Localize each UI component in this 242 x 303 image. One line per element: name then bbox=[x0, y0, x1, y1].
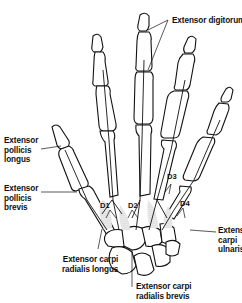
label-line: Extensor bbox=[4, 136, 38, 146]
label-d3: D3 bbox=[167, 172, 177, 182]
label-extensor-carpi-radialis-longus: Extensor carpi radialis longus bbox=[62, 255, 118, 274]
label-line: pollicis bbox=[4, 146, 38, 156]
label-line: radialis longus bbox=[62, 265, 118, 275]
label-d1: D1 bbox=[100, 201, 110, 211]
label-line: ulnaris bbox=[218, 245, 242, 255]
label-extensor-pollicis-longus: Extensor pollicis longus bbox=[4, 136, 38, 165]
label-extensor-carpi-ulnaris: Extensor carpi ulnaris bbox=[218, 226, 242, 255]
label-line: Extensor carpi bbox=[62, 255, 118, 265]
label-extensor-carpi-radialis-brevis: Extensor carpi radialis brevis bbox=[136, 282, 191, 301]
label-extensor-digitorum: Extensor digitorum bbox=[172, 16, 242, 26]
label-line: pollicis bbox=[4, 194, 38, 204]
hand-anatomy-diagram: Extensor digitorum Extensor pollicis lon… bbox=[0, 0, 242, 303]
label-line: radialis brevis bbox=[136, 292, 191, 302]
label-line: longus bbox=[4, 155, 38, 165]
label-line: carpi bbox=[218, 236, 242, 246]
label-d4: D4 bbox=[180, 199, 190, 209]
label-d2: D2 bbox=[128, 201, 138, 211]
middle-finger-bones bbox=[134, 13, 153, 196]
label-line: Extensor carpi bbox=[136, 282, 191, 292]
index-finger-bones bbox=[92, 34, 118, 197]
label-line: Extensor bbox=[218, 226, 242, 236]
label-line: brevis bbox=[4, 203, 38, 213]
label-extensor-pollicis-brevis: Extensor pollicis brevis bbox=[4, 184, 38, 213]
label-line: Extensor bbox=[4, 184, 38, 194]
